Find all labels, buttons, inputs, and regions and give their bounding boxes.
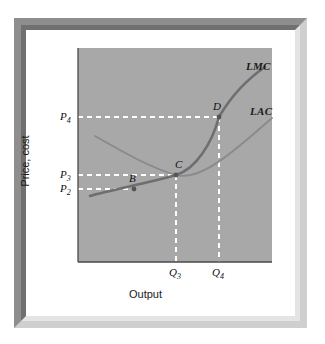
y-tick-p2-sub: 2 <box>67 188 71 197</box>
y-tick-p3-base: P <box>60 168 67 180</box>
y-tick-label-p3: P3 <box>60 168 71 183</box>
point-label-c: C <box>175 158 182 170</box>
curve-label-lmc: LMC <box>246 60 271 72</box>
x-tick-q4-sub: 4 <box>220 272 224 281</box>
curve-label-lac: LAC <box>250 105 272 117</box>
x-tick-label-q4: Q4 <box>212 266 224 281</box>
y-axis-title: Price, cost <box>19 111 31 211</box>
y-tick-p2-base: P <box>60 182 67 194</box>
point-label-d: D <box>213 100 221 112</box>
y-tick-label-p4: P4 <box>60 110 71 125</box>
x-tick-q3-base: Q <box>169 266 177 278</box>
y-tick-p4-base: P <box>60 110 67 122</box>
x-tick-q3-sub: 3 <box>177 272 181 281</box>
x-tick-label-q3: Q3 <box>169 266 181 281</box>
x-tick-q4-base: Q <box>212 266 220 278</box>
y-tick-label-p2: P2 <box>60 182 71 197</box>
y-tick-p4-sub: 4 <box>67 116 71 125</box>
x-axis-title: Output <box>129 288 162 300</box>
point-label-b: B <box>129 172 136 184</box>
